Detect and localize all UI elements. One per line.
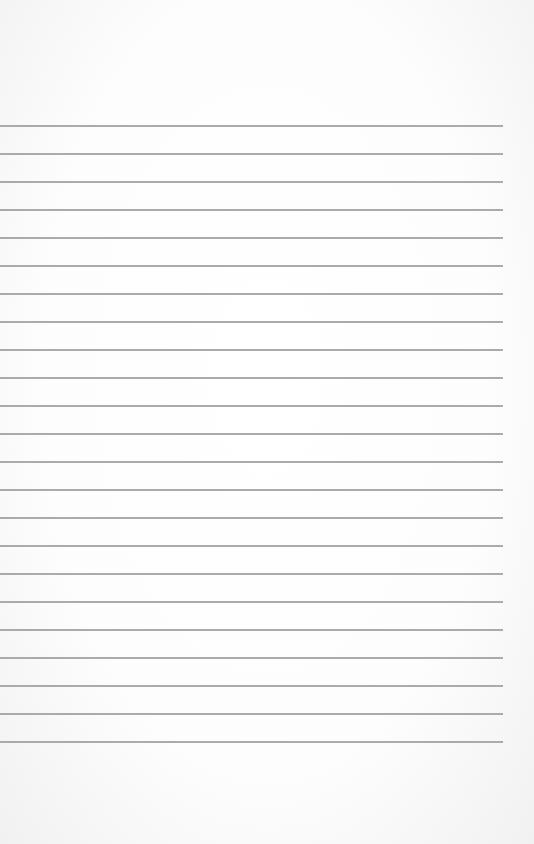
ruled-line [0,153,503,155]
ruled-line [0,461,503,463]
ruled-line [0,573,503,575]
ruled-line [0,209,503,211]
ruled-line [0,489,503,491]
ruled-line [0,349,503,351]
ruled-line [0,713,503,715]
ruled-line [0,545,503,547]
ruled-line [0,685,503,687]
ruled-line [0,181,503,183]
ruled-line [0,237,503,239]
ruled-lines [0,0,534,844]
ruled-line [0,405,503,407]
ruled-line [0,433,503,435]
ruled-line [0,657,503,659]
ruled-line [0,265,503,267]
ruled-line [0,125,503,127]
ruled-line [0,517,503,519]
ruled-line [0,629,503,631]
ruled-line [0,741,503,743]
ruled-line [0,293,503,295]
lined-paper-sheet [0,0,534,844]
ruled-line [0,601,503,603]
ruled-line [0,321,503,323]
ruled-line [0,377,503,379]
